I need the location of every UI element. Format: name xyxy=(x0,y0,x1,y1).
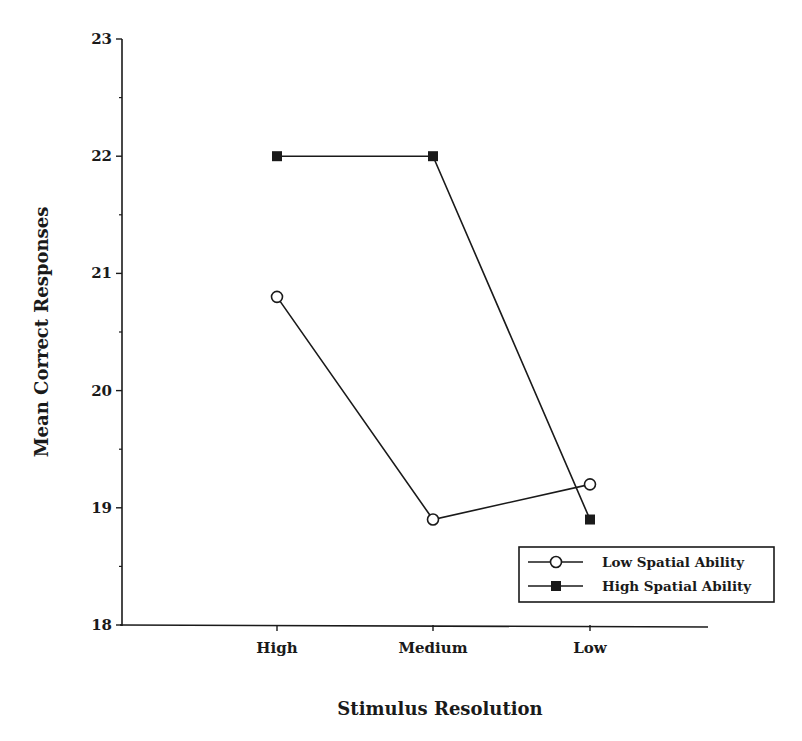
x-axis-line xyxy=(120,625,708,627)
filled-square-marker xyxy=(585,515,595,525)
filled-square-marker xyxy=(272,151,282,161)
y-tick-label: 23 xyxy=(91,30,112,48)
open-circle-marker xyxy=(585,479,596,490)
x-tick-label: Medium xyxy=(398,639,467,657)
series-layer xyxy=(272,151,596,525)
filled-square-marker xyxy=(428,151,438,161)
series-line xyxy=(277,297,590,520)
legend: Low Spatial AbilityHigh Spatial Ability xyxy=(519,547,774,602)
y-tick-label: 21 xyxy=(91,264,112,282)
legend-label: Low Spatial Ability xyxy=(602,554,745,570)
legend-open-circle-icon xyxy=(551,557,562,568)
x-tick-label: Low xyxy=(573,639,608,657)
series-high-spatial-ability xyxy=(272,151,595,524)
y-tick-label: 18 xyxy=(91,616,112,634)
legend-filled-square-icon xyxy=(551,581,561,591)
y-tick-label: 20 xyxy=(91,382,112,400)
x-axis-title: Stimulus Resolution xyxy=(337,698,542,719)
x-tick-label: High xyxy=(256,639,297,657)
y-axis-title: Mean Correct Responses xyxy=(31,207,52,458)
y-tick-label: 22 xyxy=(91,147,112,165)
series-line xyxy=(277,156,590,519)
x-axis: HighMediumLow xyxy=(120,625,708,657)
open-circle-marker xyxy=(428,514,439,525)
series-low-spatial-ability xyxy=(272,291,596,525)
y-tick-label: 19 xyxy=(91,499,112,517)
open-circle-marker xyxy=(272,291,283,302)
y-axis: 181920212223 xyxy=(91,30,122,634)
line-chart: 181920212223 HighMediumLow Low Spatial A… xyxy=(0,0,802,741)
legend-label: High Spatial Ability xyxy=(602,578,752,594)
